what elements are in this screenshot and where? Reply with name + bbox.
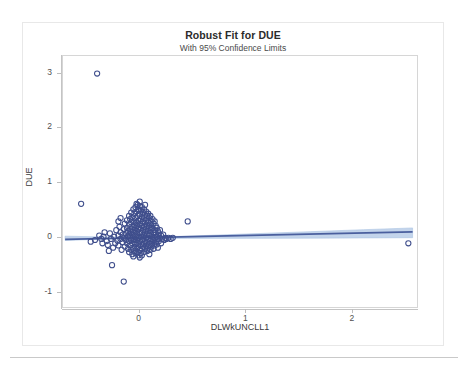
plot-area (62, 55, 418, 308)
chart-page: Robust Fit for DUE With 95% Confidence L… (0, 0, 466, 368)
data-point-marker (109, 263, 114, 268)
data-points (79, 71, 411, 284)
data-point-marker (121, 279, 126, 284)
data-point-marker (185, 219, 190, 224)
chart-subtitle: With 95% Confidence Limits (0, 43, 466, 53)
data-point-marker (95, 71, 100, 76)
data-point-marker (79, 201, 84, 206)
data-point-marker (119, 247, 124, 252)
scatter-plot-canvas (63, 56, 418, 308)
data-point-marker (106, 248, 111, 253)
data-point-marker (406, 241, 411, 246)
footer-divider (10, 357, 458, 358)
chart-title: Robust Fit for DUE (0, 29, 466, 41)
